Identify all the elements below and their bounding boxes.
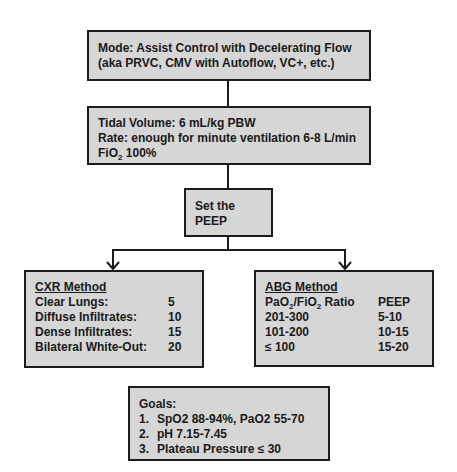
abg-header-row: PaO2/FiO2 Ratio PEEP (265, 295, 418, 310)
peep-line-2: PEEP (195, 214, 271, 229)
pao2-label: PaO (265, 295, 289, 309)
abg-row: 101-20010-15 (265, 325, 418, 340)
abg-header-value: PEEP (378, 295, 418, 310)
goal-item: 1.SpO2 88-94%, PaO2 55-70 (139, 412, 328, 427)
abg-row-value: 15-20 (378, 340, 418, 355)
fio2-value: 100% (122, 146, 156, 160)
cxr-row: Dense Infiltrates:15 (35, 325, 190, 340)
goals-title: Goals: (139, 397, 328, 412)
mode-line-1: Mode: Assist Control with Decelerating F… (98, 41, 369, 56)
abg-row-label: 101-200 (265, 325, 309, 340)
mode-box: Mode: Assist Control with Decelerating F… (87, 30, 371, 81)
abg-header-label: PaO2/FiO2 Ratio (265, 295, 355, 310)
set-peep-box: Set the PEEP (184, 188, 273, 237)
goal-text: pH 7.15-7.45 (157, 427, 227, 442)
goal-number: 3. (139, 442, 157, 457)
cxr-row: Diffuse Infiltrates:10 (35, 310, 190, 325)
abg-row: ≤ 10015-20 (265, 340, 418, 355)
cxr-row-label: Bilateral White-Out: (35, 340, 147, 355)
cxr-title: CXR Method (35, 280, 190, 295)
cxr-row-label: Dense Infiltrates: (35, 325, 132, 340)
abg-row-value: 10-15 (378, 325, 418, 340)
abg-row-value: 5-10 (378, 310, 418, 325)
abg-title: ABG Method (265, 280, 418, 295)
arrow-down-icon (339, 262, 351, 269)
abg-method-box: ABG Method PaO2/FiO2 Ratio PEEP 201-3005… (254, 270, 434, 367)
abg-row-label: 201-300 (265, 310, 309, 325)
ratio-label: Ratio (321, 295, 354, 309)
cxr-method-box: CXR Method Clear Lungs:5 Diffuse Infiltr… (24, 270, 204, 368)
cxr-row-label: Diffuse Infiltrates: (35, 310, 137, 325)
cxr-row-value: 20 (168, 340, 190, 355)
cxr-row: Bilateral White-Out:20 (35, 340, 190, 355)
cxr-row-value: 10 (168, 310, 190, 325)
goals-box: Goals: 1.SpO2 88-94%, PaO2 55-70 2.pH 7.… (128, 386, 330, 461)
goal-text: Plateau Pressure ≤ 30 (157, 442, 281, 457)
arrow-down-icon (107, 262, 119, 269)
rate-text: Rate: enough for minute ventilation 6-8 … (98, 131, 369, 146)
goal-item: 3.Plateau Pressure ≤ 30 (139, 442, 328, 457)
cxr-row-value: 5 (168, 295, 190, 310)
tidal-volume-text: Tidal Volume: 6 mL/kg PBW (98, 116, 369, 131)
goal-number: 2. (139, 427, 157, 442)
peep-line-1: Set the (195, 199, 271, 214)
goal-number: 1. (139, 412, 157, 427)
cxr-row-value: 15 (168, 325, 190, 340)
goal-item: 2.pH 7.15-7.45 (139, 427, 328, 442)
abg-row-label: ≤ 100 (265, 340, 295, 355)
fio2-label: /FiO (293, 295, 316, 309)
fio2-label: FiO (98, 146, 118, 160)
abg-row: 201-3005-10 (265, 310, 418, 325)
fio2-text: FiO2 100% (98, 146, 369, 161)
cxr-row-label: Clear Lungs: (35, 295, 108, 310)
mode-line-2: (aka PRVC, CMV with Autoflow, VC+, etc.) (98, 56, 369, 71)
cxr-row: Clear Lungs:5 (35, 295, 190, 310)
goal-text: SpO2 88-94%, PaO2 55-70 (157, 412, 304, 427)
settings-box: Tidal Volume: 6 mL/kg PBW Rate: enough f… (87, 106, 371, 165)
